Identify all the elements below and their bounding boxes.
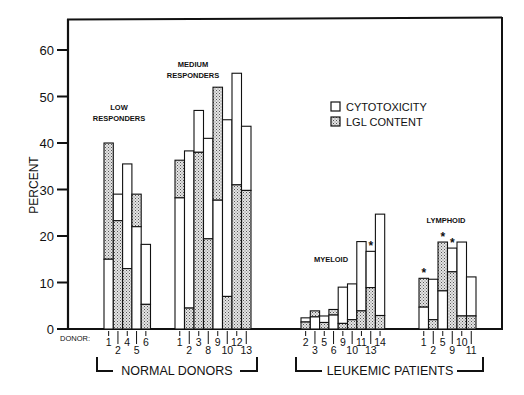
bar-donor-8: [204, 138, 214, 329]
leukemic-patients-label: LEUKEMIC PATIENTS: [327, 364, 454, 378]
y-axis-ticks: 0102030405060: [40, 43, 68, 337]
donor-label: 1: [106, 336, 112, 348]
bar-donor-4: [123, 164, 132, 329]
y-tick-label: 0: [47, 322, 54, 337]
donor-label: 14: [374, 336, 386, 348]
lymphoid-label: LYMPHOID: [427, 216, 466, 225]
significance-star: *: [450, 236, 455, 250]
low-responders-label-1: LOW: [110, 103, 128, 112]
donor-label: 6: [143, 336, 149, 348]
donor-label: 5: [321, 336, 327, 348]
legend-label-cytotoxicity: CYTOTOXICITY: [346, 101, 428, 113]
bar-donor-9: [213, 87, 223, 329]
bar-donor-2: [429, 279, 439, 329]
bar-donor-10: [348, 284, 357, 329]
significance-star: *: [440, 230, 445, 244]
bar-donor-6: [329, 309, 338, 329]
normal-donors-label: NORMAL DONORS: [121, 364, 232, 378]
donor-label: 8: [205, 344, 211, 356]
y-tick-label: 50: [40, 90, 54, 105]
bar-donor-9: *: [448, 236, 458, 329]
bar-donor-3: [310, 311, 319, 329]
legend-label-lgl: LGL CONTENT: [346, 116, 423, 128]
bar-donor-10: [457, 242, 467, 329]
y-tick-label: 20: [40, 229, 54, 244]
bar-donor-11: [357, 242, 366, 329]
bar-donor-3: [194, 110, 204, 329]
y-axis-title: PERCENT: [27, 156, 41, 214]
donor-label: 4: [124, 336, 130, 348]
significance-star: *: [368, 239, 373, 253]
donor-label: 2: [430, 344, 436, 356]
bar-donor-1: [175, 160, 185, 329]
bar-donor-5: [132, 194, 141, 329]
bar-donor-12: [232, 73, 242, 329]
donor-label: 5: [134, 344, 140, 356]
leukemic-patients-bracket: LEUKEMIC PATIENTS: [296, 357, 483, 378]
donor-label: 9: [215, 336, 221, 348]
donor-label: 5: [440, 336, 446, 348]
y-tick-label: 10: [40, 276, 54, 291]
bar-chart: 0102030405060 PERCENT **** 1245612389101…: [0, 0, 524, 395]
donor-label: 9: [340, 336, 346, 348]
donor-label: 13: [240, 344, 252, 356]
legend-swatch-cytotoxicity: [331, 102, 340, 111]
bar-donor-10: [223, 120, 233, 329]
donor-label: 1: [421, 336, 427, 348]
medium-responders-label-2: RESPONDERS: [167, 71, 220, 80]
donor-label: 9: [449, 344, 455, 356]
bar-donor-2: [301, 318, 310, 329]
donor-label: 2: [115, 344, 121, 356]
bar-donor-13: *: [366, 239, 375, 329]
bar-donor-2: [185, 151, 195, 329]
bar-donor-13: [242, 126, 252, 329]
bar-donor-5: [320, 316, 329, 329]
donor-label: 3: [312, 344, 318, 356]
legend-swatch-lgl: [331, 117, 340, 126]
bar-donor-6: [141, 244, 150, 329]
bar-donor-5: *: [438, 230, 448, 329]
bar-donor-14: [375, 214, 384, 329]
normal-donors-bracket: NORMAL DONORS: [97, 357, 257, 378]
bar-donor-9: [338, 287, 347, 329]
bar-donor-1: [104, 143, 113, 329]
donor-label: 1: [177, 336, 183, 348]
y-tick-label: 30: [40, 183, 54, 198]
legend: CYTOTOXICITY LGL CONTENT: [331, 101, 428, 128]
donor-label: 11: [466, 344, 477, 356]
bar-donor-1: *: [419, 266, 429, 329]
chart-canvas: 0102030405060 PERCENT **** 1245612389101…: [0, 0, 524, 395]
y-tick-label: 60: [40, 43, 54, 58]
medium-responders-label-1: MEDIUM: [178, 60, 208, 69]
y-tick-label: 40: [40, 136, 54, 151]
donor-label: 6: [331, 344, 337, 356]
low-responders-label-2: RESPONDERS: [93, 114, 146, 123]
donor-label: 3: [196, 336, 202, 348]
bar-donor-11: [467, 277, 477, 329]
donor-labels: 1245612389101213235691011131412591011: [106, 331, 477, 356]
donor-label: 2: [303, 336, 309, 348]
bar-donor-2: [113, 194, 122, 329]
donor-label: 2: [186, 344, 192, 356]
significance-star: *: [421, 266, 426, 280]
donor-axis-prefix: DONOR:: [60, 334, 90, 343]
myeloid-label: MYELOID: [314, 255, 349, 264]
